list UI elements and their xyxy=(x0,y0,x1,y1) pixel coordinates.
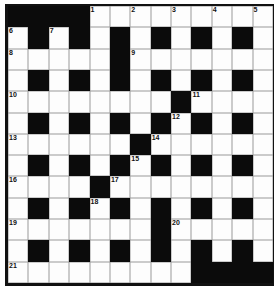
answer-cell[interactable] xyxy=(110,262,130,283)
answer-cell[interactable] xyxy=(69,134,89,155)
answer-cell[interactable] xyxy=(151,262,171,283)
answer-cell[interactable] xyxy=(253,155,273,176)
answer-cell[interactable] xyxy=(171,49,191,70)
answer-cell[interactable] xyxy=(90,70,110,91)
answer-cell[interactable] xyxy=(49,155,69,176)
answer-cell[interactable] xyxy=(151,49,171,70)
answer-cell[interactable] xyxy=(90,155,110,176)
answer-cell[interactable] xyxy=(90,27,110,48)
answer-cell[interactable]: 1 xyxy=(90,6,110,27)
answer-cell[interactable] xyxy=(28,262,48,283)
answer-cell[interactable] xyxy=(232,134,252,155)
answer-cell[interactable] xyxy=(171,240,191,261)
answer-cell[interactable] xyxy=(151,91,171,112)
answer-cell[interactable] xyxy=(49,70,69,91)
answer-cell[interactable] xyxy=(232,49,252,70)
answer-cell[interactable] xyxy=(28,134,48,155)
answer-cell[interactable] xyxy=(130,198,150,219)
answer-cell[interactable] xyxy=(130,262,150,283)
answer-cell[interactable] xyxy=(49,219,69,240)
answer-cell[interactable] xyxy=(253,176,273,197)
answer-cell[interactable] xyxy=(212,91,232,112)
answer-cell[interactable] xyxy=(253,134,273,155)
answer-cell[interactable] xyxy=(253,198,273,219)
answer-cell[interactable] xyxy=(130,176,150,197)
answer-cell[interactable]: 6 xyxy=(8,27,28,48)
answer-cell[interactable] xyxy=(69,176,89,197)
answer-cell[interactable] xyxy=(49,91,69,112)
answer-cell[interactable] xyxy=(8,240,28,261)
answer-cell[interactable] xyxy=(253,91,273,112)
answer-cell[interactable] xyxy=(8,70,28,91)
answer-cell[interactable] xyxy=(151,6,171,27)
answer-cell[interactable] xyxy=(151,176,171,197)
answer-cell[interactable] xyxy=(130,91,150,112)
answer-cell[interactable]: 14 xyxy=(151,134,171,155)
answer-cell[interactable] xyxy=(232,91,252,112)
answer-cell[interactable]: 3 xyxy=(171,6,191,27)
answer-cell[interactable] xyxy=(130,219,150,240)
answer-cell[interactable] xyxy=(8,113,28,134)
answer-cell[interactable] xyxy=(90,113,110,134)
answer-cell[interactable] xyxy=(110,6,130,27)
answer-cell[interactable] xyxy=(90,219,110,240)
answer-cell[interactable] xyxy=(49,176,69,197)
answer-cell[interactable]: 17 xyxy=(110,176,130,197)
answer-cell[interactable] xyxy=(212,198,232,219)
answer-cell[interactable]: 9 xyxy=(130,49,150,70)
answer-cell[interactable] xyxy=(130,27,150,48)
answer-cell[interactable]: 21 xyxy=(8,262,28,283)
answer-cell[interactable] xyxy=(212,240,232,261)
answer-cell[interactable]: 11 xyxy=(191,91,211,112)
answer-cell[interactable] xyxy=(253,219,273,240)
answer-cell[interactable] xyxy=(212,219,232,240)
answer-cell[interactable]: 4 xyxy=(212,6,232,27)
answer-cell[interactable] xyxy=(171,70,191,91)
answer-cell[interactable] xyxy=(212,155,232,176)
answer-cell[interactable] xyxy=(90,91,110,112)
answer-cell[interactable]: 10 xyxy=(8,91,28,112)
answer-cell[interactable] xyxy=(8,155,28,176)
answer-cell[interactable] xyxy=(191,49,211,70)
answer-cell[interactable] xyxy=(49,262,69,283)
answer-cell[interactable] xyxy=(171,262,191,283)
answer-cell[interactable] xyxy=(191,6,211,27)
answer-cell[interactable] xyxy=(69,219,89,240)
answer-cell[interactable] xyxy=(232,6,252,27)
answer-cell[interactable] xyxy=(253,49,273,70)
answer-cell[interactable] xyxy=(28,91,48,112)
answer-cell[interactable] xyxy=(49,113,69,134)
answer-cell[interactable] xyxy=(171,198,191,219)
answer-cell[interactable]: 19 xyxy=(8,219,28,240)
answer-cell[interactable] xyxy=(212,113,232,134)
answer-cell[interactable] xyxy=(90,134,110,155)
answer-cell[interactable] xyxy=(130,70,150,91)
answer-cell[interactable] xyxy=(90,240,110,261)
answer-cell[interactable] xyxy=(253,27,273,48)
answer-cell[interactable]: 15 xyxy=(130,155,150,176)
answer-cell[interactable] xyxy=(212,176,232,197)
answer-cell[interactable] xyxy=(253,70,273,91)
answer-cell[interactable] xyxy=(90,262,110,283)
answer-cell[interactable] xyxy=(8,198,28,219)
answer-cell[interactable] xyxy=(28,49,48,70)
answer-cell[interactable]: 13 xyxy=(8,134,28,155)
answer-cell[interactable] xyxy=(171,27,191,48)
answer-cell[interactable]: 20 xyxy=(171,219,191,240)
answer-cell[interactable] xyxy=(49,198,69,219)
answer-cell[interactable] xyxy=(212,134,232,155)
answer-cell[interactable] xyxy=(253,240,273,261)
answer-cell[interactable] xyxy=(69,262,89,283)
answer-cell[interactable]: 5 xyxy=(253,6,273,27)
answer-cell[interactable] xyxy=(28,219,48,240)
answer-cell[interactable] xyxy=(69,49,89,70)
answer-cell[interactable]: 12 xyxy=(171,113,191,134)
answer-cell[interactable] xyxy=(28,176,48,197)
answer-cell[interactable] xyxy=(49,240,69,261)
answer-cell[interactable] xyxy=(212,70,232,91)
answer-cell[interactable] xyxy=(49,49,69,70)
answer-cell[interactable]: 16 xyxy=(8,176,28,197)
answer-cell[interactable] xyxy=(212,49,232,70)
answer-cell[interactable] xyxy=(110,134,130,155)
answer-cell[interactable]: 8 xyxy=(8,49,28,70)
